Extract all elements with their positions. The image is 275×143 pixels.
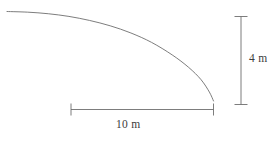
vertical-dimension-line — [235, 17, 248, 105]
horizontal-dimension-line — [71, 104, 214, 116]
profile-curve — [7, 12, 214, 102]
curve-diagram-figure: 4 m 10 m — [0, 0, 275, 143]
vertical-dimension-label: 4 m — [249, 52, 267, 64]
horizontal-dimension-label: 10 m — [116, 118, 141, 130]
